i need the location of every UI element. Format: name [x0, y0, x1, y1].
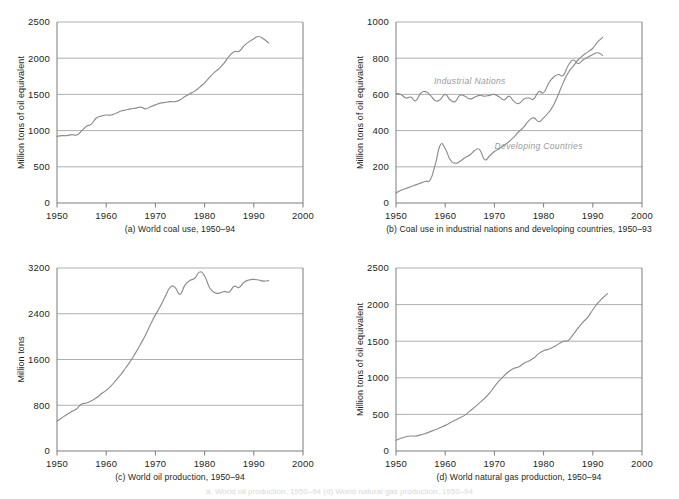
series-annotation: Developing Countries: [495, 141, 584, 151]
y-tick-label: 2400: [28, 308, 50, 319]
y-tick-label: 2500: [28, 16, 50, 27]
chart-caption-b: (b) Coal use in industrial nations and d…: [386, 224, 652, 234]
x-tick-label: 1990: [582, 458, 604, 469]
x-tick-label: 1990: [243, 458, 265, 469]
y-tick-label: 1500: [367, 336, 389, 347]
y-tick-label: 800: [34, 400, 50, 411]
gridlines-c: 0800160024003200: [28, 262, 303, 456]
x-tick-label: 1960: [434, 210, 456, 221]
y-tick-label: 500: [373, 409, 389, 420]
y-tick-label: 3200: [28, 262, 50, 273]
y-tick-label: 2000: [367, 299, 389, 310]
y-tick-label: 1500: [28, 89, 50, 100]
x-tick-label: 1960: [434, 458, 456, 469]
x-tick-label: 1950: [46, 458, 68, 469]
data-series-c-0: [57, 272, 269, 421]
x-tick-label: 1990: [582, 210, 604, 221]
y-axis-title: Million tons of oil equivalent: [355, 56, 365, 169]
y-tick-label: 2500: [367, 262, 389, 273]
x-tick-label: 2000: [631, 210, 653, 221]
chart-d: 0500100015002000250019501960197019801990…: [340, 250, 679, 499]
chart-caption-a: (a) World coal use, 1950–94: [125, 224, 236, 234]
page-footnote: a. World oil production, 1950–94 (d) Wor…: [0, 487, 679, 499]
series-annotation: Industrial Nations: [434, 76, 506, 86]
y-tick-label: 500: [34, 161, 50, 172]
gridlines-b: 02004006008001000: [367, 16, 642, 208]
y-tick-label: 0: [45, 197, 50, 208]
chart-c: 0800160024003200195019601970198019902000…: [0, 250, 340, 499]
gridlines-d: 05001000150020002500: [367, 262, 642, 456]
y-axis-title: Million tons of oil equivalent: [355, 303, 365, 416]
y-tick-label: 1600: [28, 354, 50, 365]
x-tick-label: 1990: [243, 210, 265, 221]
y-tick-label: 1000: [367, 16, 389, 27]
y-tick-label: 0: [384, 197, 389, 208]
x-tick-label: 1950: [46, 210, 68, 221]
x-tick-label: 1960: [95, 210, 117, 221]
gridlines-a: 05001000150020002500: [28, 16, 303, 208]
chart-b: 0200400600800100019501960197019801990200…: [340, 0, 679, 250]
data-series-a-0: [57, 36, 269, 136]
y-tick-label: 2000: [28, 53, 50, 64]
x-ticks-c: 195019601970198019902000: [46, 451, 314, 469]
y-axis-title: Million tons: [16, 336, 26, 383]
x-tick-label: 1950: [385, 458, 407, 469]
y-tick-label: 0: [384, 445, 389, 456]
y-tick-label: 1000: [28, 125, 50, 136]
chart-panel-a: 0500100015002000250019501960197019801990…: [0, 0, 340, 250]
chart-panel-d: 0500100015002000250019501960197019801990…: [340, 250, 679, 499]
chart-panel-c: 0800160024003200195019601970198019902000…: [0, 250, 340, 499]
x-tick-label: 1950: [385, 210, 407, 221]
y-tick-label: 200: [373, 161, 389, 172]
y-tick-label: 1000: [367, 372, 389, 383]
x-tick-label: 1970: [144, 458, 166, 469]
x-ticks-b: 195019601970198019902000: [385, 203, 653, 221]
chart-caption-c: (c) World oil production, 1950–94: [115, 472, 245, 482]
x-ticks-a: 195019601970198019902000: [46, 203, 314, 221]
chart-panel-b: 0200400600800100019501960197019801990200…: [340, 0, 679, 250]
data-series-d-0: [396, 294, 608, 441]
x-ticks-d: 195019601970198019902000: [385, 451, 653, 469]
y-tick-label: 400: [373, 125, 389, 136]
x-tick-label: 1960: [95, 458, 117, 469]
y-tick-label: 800: [373, 53, 389, 64]
x-tick-label: 1970: [144, 210, 166, 221]
chart-a: 0500100015002000250019501960197019801990…: [0, 0, 340, 250]
y-tick-label: 0: [45, 445, 50, 456]
x-tick-label: 1980: [533, 458, 555, 469]
y-tick-label: 600: [373, 89, 389, 100]
chart-caption-d: (d) World natural gas production, 1950–9…: [437, 472, 602, 482]
x-tick-label: 1970: [483, 210, 505, 221]
y-axis-title: Million tons of oil equivalent: [16, 56, 26, 169]
x-tick-label: 1980: [533, 210, 555, 221]
x-tick-label: 2000: [292, 458, 314, 469]
x-tick-label: 2000: [631, 458, 653, 469]
x-tick-label: 2000: [292, 210, 314, 221]
x-tick-label: 1980: [194, 458, 216, 469]
x-tick-label: 1980: [194, 210, 216, 221]
x-tick-label: 1970: [483, 458, 505, 469]
